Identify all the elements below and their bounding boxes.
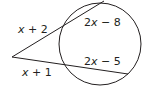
label-coefficient: 2 xyxy=(84,16,91,29)
secant-diagram: x + 2 2x − 8 2x − 5 x + 1 xyxy=(0,0,142,94)
label-expression: − 8 xyxy=(98,16,121,29)
diagram-graphic xyxy=(0,0,142,94)
lower-external-label: x + 1 xyxy=(22,67,52,78)
label-expression: − 5 xyxy=(98,55,121,68)
upper-external-label: x + 2 xyxy=(18,24,48,35)
label-expression: + 1 xyxy=(29,66,52,79)
upper-internal-label: 2x − 8 xyxy=(84,17,121,28)
label-expression: + 2 xyxy=(25,23,48,36)
lower-internal-label: 2x − 5 xyxy=(84,56,121,67)
label-coefficient: 2 xyxy=(84,55,91,68)
